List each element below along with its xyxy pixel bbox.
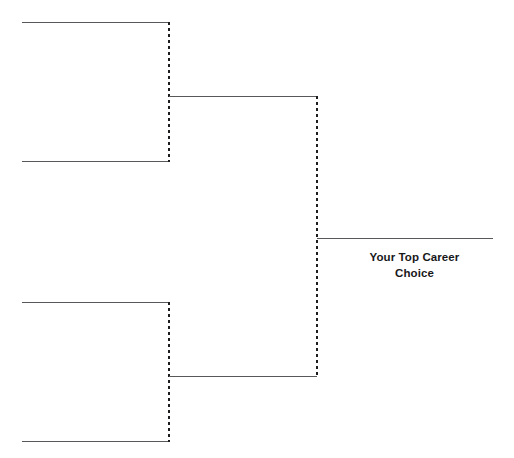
career-bracket-diagram: Your Top Career Choice <box>0 0 514 458</box>
bracket-lines-svg <box>0 0 514 458</box>
final-label-line-2: Choice <box>331 266 498 282</box>
final-label-line-1: Your Top Career <box>331 250 498 266</box>
final-winner-label: Your Top Career Choice <box>331 250 498 281</box>
